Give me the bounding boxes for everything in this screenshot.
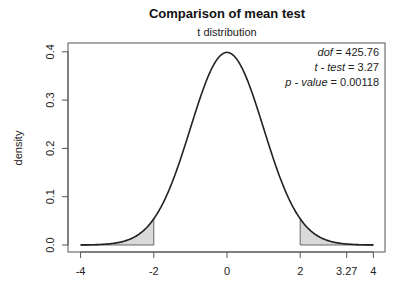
t-test-value: = 3.27 (345, 61, 379, 73)
y-axis: 0.00.10.20.30.4 (44, 44, 68, 252)
p-value-value: = 0.00118 (328, 76, 379, 88)
p-value-annotation: p - value = 0.00118 (284, 76, 379, 88)
t-test-annotation: t - test = 3.27 (314, 61, 379, 73)
stats-annotation: dof = 425.76 t - test = 3.27 p - value =… (284, 46, 379, 88)
y-tick-label: 0.2 (44, 141, 56, 156)
chart-subtitle: t distribution (197, 26, 256, 38)
y-tick-label: 0.0 (44, 237, 56, 252)
y-tick-label: 0.3 (44, 92, 56, 107)
dof-label: dof (318, 46, 334, 58)
x-tick-label: 2 (297, 265, 303, 277)
x-tick-label: 4 (370, 265, 376, 277)
t-distribution-chart: Comparison of mean test t distribution -… (0, 0, 406, 295)
x-tick-label: 0 (224, 265, 230, 277)
chart-title: Comparison of mean test (149, 6, 306, 21)
dof-value: = 425.76 (333, 46, 379, 58)
plot-area (68, 43, 385, 252)
x-tick-label: -2 (149, 265, 159, 277)
x-tick-label: -4 (76, 265, 86, 277)
dof-annotation: dof = 425.76 (318, 46, 379, 58)
y-tick-label: 0.1 (44, 189, 56, 204)
t-test-label: t - test (314, 61, 346, 73)
y-axis-label: density (12, 130, 24, 165)
x-axis: -4-2023.274 (76, 252, 377, 277)
p-value-label: p - value (284, 76, 327, 88)
y-tick-label: 0.4 (44, 44, 56, 59)
plot-frame (68, 43, 385, 252)
x-tick-label: 3.27 (336, 265, 357, 277)
